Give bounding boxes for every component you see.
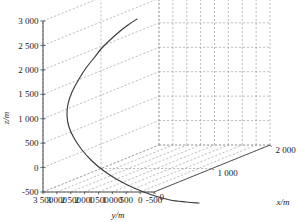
z-tick-label-6: 0 [34,163,39,173]
z-tick-label-4: 1 000 [18,114,39,124]
chart-canvas: 3 0002 5002 0001 5001 0005000-5003 5003 … [0,0,300,222]
x-tick [212,169,214,171]
x-axis-title: x/m [276,197,290,207]
y-axis-title: y/m [111,210,125,220]
x-tick-label-0: 0 [160,192,165,202]
y-tick-label-6: 500 [120,195,134,205]
z-axis-title: z/m [1,111,11,125]
z-tick-label-2: 2 000 [18,65,39,75]
z-tick-label-5: 500 [25,138,39,148]
z-tick-label-1: 2 500 [18,41,39,51]
y-tick-label-7: 0 [138,195,143,205]
x-tick-label-2: 2 000 [276,145,297,155]
z-tick-label-3: 1 500 [18,89,39,99]
x-tick [270,145,272,147]
chart-3d-trajectory: 3 0002 5002 0001 5001 0005000-5003 5003 … [0,0,300,222]
z-tick-label-0: 3 000 [18,16,39,26]
x-tick-label-1: 1 000 [218,168,239,178]
trajectory-curve [67,19,199,203]
